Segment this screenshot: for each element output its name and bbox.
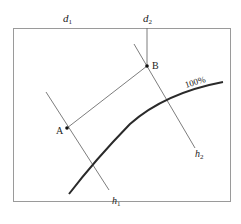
diagram-canvas: d1 d2 B A h1 h2 100% (0, 0, 241, 224)
d1-label: d1 (63, 12, 73, 26)
h1-label: h1 (112, 195, 121, 208)
point-a-marker (65, 126, 69, 130)
point-a-label: A (56, 125, 64, 136)
curve-100-percent (69, 82, 223, 194)
curve-label: 100% (184, 74, 207, 90)
point-b-marker (145, 64, 149, 68)
d2-label: d2 (143, 12, 153, 26)
h2-label: h2 (195, 148, 204, 161)
h2-line (134, 44, 195, 148)
h1-line (46, 92, 109, 190)
point-b-label: B (152, 60, 159, 71)
frame-border (14, 29, 231, 202)
